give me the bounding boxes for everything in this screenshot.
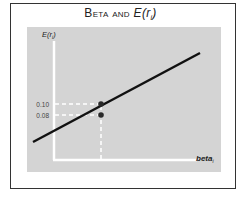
- point-on-line: [98, 101, 104, 107]
- chart-plot: 0.10 0.08 E(ri) betai: [0, 0, 241, 200]
- plot-panel: [27, 27, 221, 172]
- y-axis-label: E(ri): [42, 30, 56, 40]
- y-axis-label-close: ): [52, 30, 56, 39]
- x-axis-label: betai: [196, 154, 214, 164]
- tick-label-010: 0.10: [36, 101, 49, 108]
- x-axis-label-main: beta: [196, 154, 213, 163]
- tick-label-008: 0.08: [36, 112, 49, 119]
- y-axis-label-main: E(r: [42, 30, 53, 39]
- point-below-line: [98, 112, 104, 118]
